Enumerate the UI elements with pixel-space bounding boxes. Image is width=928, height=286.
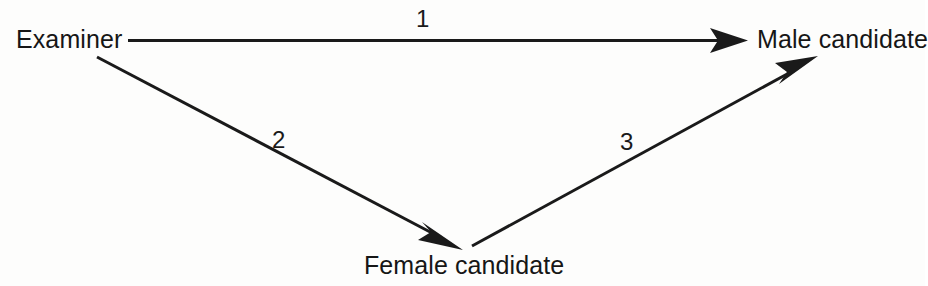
edge-line-3 — [472, 73, 789, 246]
edge-label-1: 1 — [416, 7, 429, 31]
node-label-male-candidate: Male candidate — [757, 27, 928, 52]
edge-arrow-1 — [128, 28, 748, 53]
edge-arrow-3 — [472, 56, 818, 246]
edge-label-3: 3 — [620, 130, 633, 154]
edge-arrow-2 — [97, 57, 463, 250]
edge-line-2 — [97, 57, 432, 233]
edge-arrowhead-2 — [418, 222, 463, 250]
edge-arrowhead-3 — [775, 56, 818, 84]
edge-label-2: 2 — [272, 128, 285, 152]
node-label-female-candidate: Female candidate — [364, 253, 564, 278]
node-label-examiner: Examiner — [16, 27, 122, 52]
